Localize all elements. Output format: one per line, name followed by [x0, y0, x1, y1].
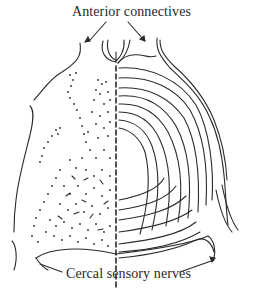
right-tracts: [119, 68, 238, 258]
ganglion-drawing: [0, 0, 253, 292]
ganglion-diagram: Anterior connectives Cercal sensory nerv…: [0, 0, 253, 292]
cercal-nerve-outline: [36, 236, 215, 272]
anterior-arrows: [85, 22, 145, 42]
left-dot-field: [31, 72, 111, 247]
cropped-caption-fragment: [0, 287, 253, 292]
connective-stumps: [102, 38, 228, 225]
